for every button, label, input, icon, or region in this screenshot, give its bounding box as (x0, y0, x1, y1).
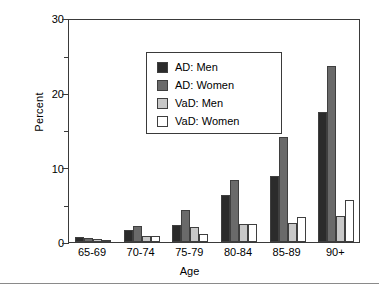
legend-item: VaD: Women (157, 112, 281, 130)
y-tick-label-0: 0 (40, 238, 64, 248)
y-axis-tick-labels: 0 10 20 30 (38, 0, 64, 296)
plot-area: AD: MenAD: WomenVaD: MenVaD: Women (68, 19, 360, 243)
x-tick-label-70-74: 70-74 (115, 246, 167, 258)
bar (221, 195, 230, 242)
bar (124, 230, 133, 242)
x-tick-label-80-84: 80-84 (212, 246, 264, 258)
y-tick-label-20: 20 (40, 89, 64, 99)
bar (327, 66, 336, 242)
y-major-tick-0 (62, 243, 69, 244)
legend-swatch-icon (157, 62, 168, 73)
bar (142, 236, 151, 242)
legend-item: VaD: Men (157, 94, 281, 112)
bar (181, 210, 190, 242)
x-tick-label-75-79: 75-79 (163, 246, 215, 258)
bar (297, 217, 306, 242)
bar (239, 224, 248, 242)
footer-divider (0, 283, 379, 284)
bar (270, 176, 279, 242)
x-tick-label-65-69: 65-69 (66, 246, 118, 258)
bar-group (75, 20, 111, 242)
legend-swatch-icon (157, 80, 168, 91)
legend-label: VaD: Women (175, 115, 239, 127)
legend-label: VaD: Men (175, 97, 223, 109)
bar (336, 216, 345, 242)
bar (75, 237, 84, 242)
bar (84, 238, 93, 242)
x-axis-title: Age (0, 265, 379, 277)
bar (318, 112, 327, 242)
y-tick-label-30: 30 (40, 14, 64, 24)
x-tick-label-90+: 90+ (309, 246, 361, 258)
legend-item: AD: Women (157, 76, 281, 94)
bar (102, 240, 111, 242)
bar (199, 234, 208, 242)
legend-label: AD: Women (175, 79, 234, 91)
legend-label: AD: Men (175, 61, 218, 73)
chart-legend: AD: MenAD: WomenVaD: MenVaD: Women (146, 52, 282, 134)
bar (230, 180, 239, 242)
bar (133, 226, 142, 242)
bar (151, 236, 160, 242)
bar (279, 137, 288, 242)
legend-swatch-icon (157, 98, 168, 109)
legend-swatch-icon (157, 116, 168, 127)
bar-group (318, 20, 354, 242)
bar (172, 225, 181, 242)
y-tick-label-10: 10 (40, 164, 64, 174)
x-tick-label-85-89: 85-89 (261, 246, 313, 258)
bar (248, 224, 257, 242)
legend-item: AD: Men (157, 58, 281, 76)
bar (345, 200, 354, 242)
bar (288, 223, 297, 242)
bar (93, 239, 102, 242)
figure: Percent 0 10 20 30 AD: MenAD: WomenVaD: … (0, 0, 379, 296)
bar (190, 227, 199, 242)
